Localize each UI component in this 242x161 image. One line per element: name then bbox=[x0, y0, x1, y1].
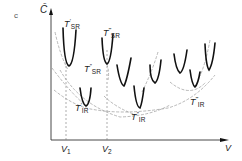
label-t-sr-3: T‴SR bbox=[103, 29, 120, 38]
x-tick-v2: V2 bbox=[102, 145, 112, 154]
sr-curve-8 bbox=[190, 70, 200, 87]
label-t-ir-1: T′IR bbox=[75, 104, 89, 113]
sr-curve-7 bbox=[174, 50, 187, 73]
x-axis-label: V bbox=[225, 144, 231, 153]
x-tick-v1: V1 bbox=[61, 145, 71, 154]
envelope-segment-4 bbox=[170, 82, 206, 91]
sr-curve-1 bbox=[63, 28, 76, 66]
label-t-sr-1: T′SR bbox=[64, 20, 80, 29]
sr-curve-4 bbox=[117, 58, 131, 86]
label-t-sr-2: T″SR bbox=[84, 65, 101, 74]
sr-curve-6 bbox=[150, 60, 161, 83]
outer-envelope-left bbox=[55, 32, 68, 70]
label-t-ir-3: T‴IR bbox=[190, 98, 205, 107]
x-axis-arrow-icon bbox=[220, 138, 229, 142]
y-axis-arrow-icon bbox=[49, 8, 53, 15]
panel-label: c bbox=[14, 12, 18, 20]
y-axis-label: C̄ bbox=[40, 5, 47, 15]
cost-curve-diagram bbox=[0, 0, 242, 161]
label-t-ir-2: T″IR bbox=[131, 113, 146, 122]
sr-curve-9 bbox=[205, 43, 215, 70]
sr-curve-5 bbox=[134, 86, 144, 108]
